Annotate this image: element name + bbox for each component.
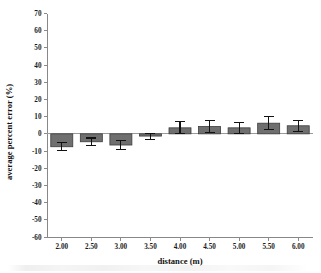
y-tick-label: -40 (32, 199, 42, 207)
page-artifact-strip (8, 265, 308, 271)
y-tick-label: 40 (34, 62, 42, 70)
y-axis-title: average percent error (%) (4, 84, 14, 180)
y-tick-label: -60 (32, 234, 42, 242)
y-tick-label: 10 (34, 113, 42, 121)
x-tick-label: 3.50 (144, 243, 157, 251)
x-tick-label: 2.50 (85, 243, 98, 251)
y-tick-label: 20 (34, 96, 42, 104)
x-tick-label: 3.00 (115, 243, 128, 251)
y-tick-label: 30 (34, 79, 42, 87)
x-tick-label: 4.00 (174, 243, 187, 251)
x-tick-label: 6.00 (292, 243, 305, 251)
y-tick-label: 0 (38, 130, 42, 138)
y-tick-label: -10 (32, 148, 42, 156)
y-tick-label: -50 (32, 216, 42, 224)
x-axis: 2.002.503.003.504.004.505.005.506.00 (47, 237, 313, 251)
bar-series (51, 117, 309, 151)
x-tick-label: 4.50 (203, 243, 216, 251)
y-tick-label: 70 (34, 10, 42, 18)
y-tick-label: 50 (34, 44, 42, 52)
y-tick-label: -20 (32, 165, 42, 173)
x-tick-label: 5.50 (262, 243, 275, 251)
bar-chart-canvas: 706050403020100-10-20-30-40-50-60average… (0, 0, 321, 273)
y-axis: 706050403020100-10-20-30-40-50-60 (32, 10, 47, 242)
chart-figure: 706050403020100-10-20-30-40-50-60average… (0, 0, 321, 273)
x-tick-label: 5.00 (233, 243, 246, 251)
x-tick-label: 2.00 (55, 243, 68, 251)
y-tick-label: 60 (34, 27, 42, 35)
y-tick-label: -30 (32, 182, 42, 190)
